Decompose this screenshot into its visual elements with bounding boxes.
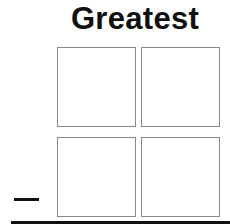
digit-box-top-tens[interactable] bbox=[57, 47, 136, 127]
digit-box-top-ones[interactable] bbox=[141, 47, 220, 127]
digit-box-bottom-ones[interactable] bbox=[141, 137, 220, 217]
minus-sign-icon bbox=[14, 198, 39, 201]
worksheet-title: Greatest bbox=[0, 0, 230, 38]
digit-box-bottom-tens[interactable] bbox=[57, 137, 136, 217]
answer-line bbox=[11, 221, 230, 224]
